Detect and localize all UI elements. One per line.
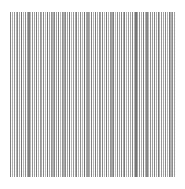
figure <box>0 0 185 189</box>
impulse-line <box>174 12 175 177</box>
plot-area <box>10 12 176 177</box>
